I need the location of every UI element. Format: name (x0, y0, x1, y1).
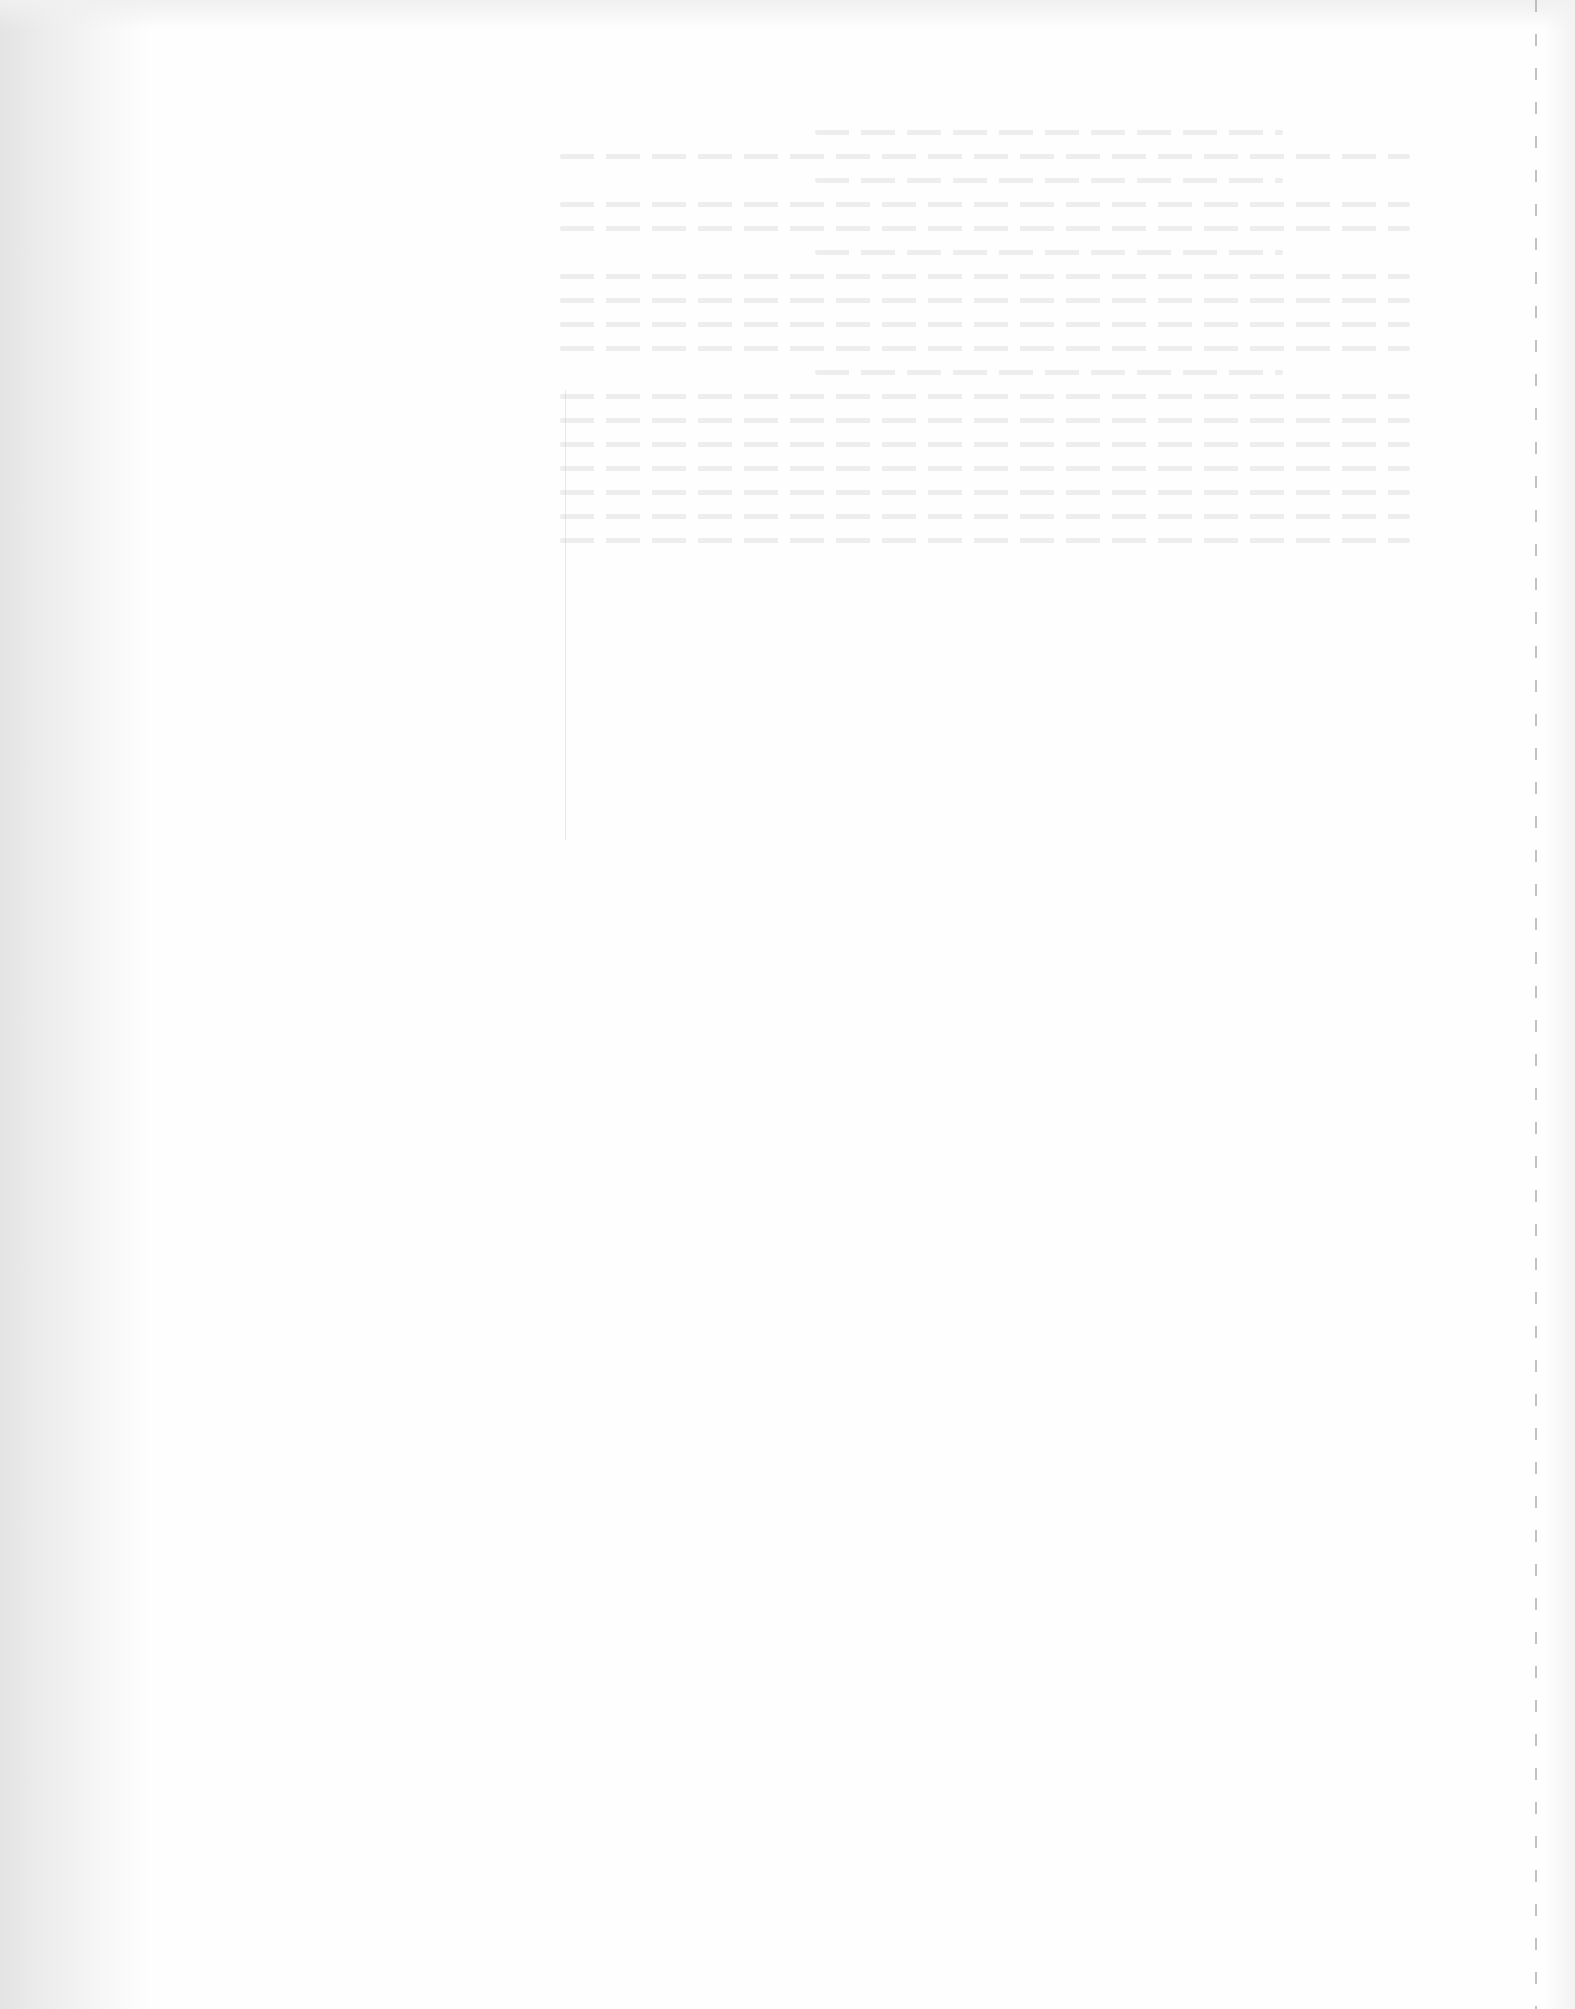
bleed-through-line (560, 418, 1410, 423)
bleed-through-line (560, 322, 1410, 327)
bleed-through-line (560, 538, 1410, 543)
bleed-through-line (815, 178, 1283, 183)
scan-edge-shadow-top (0, 0, 1575, 30)
bleed-through-line (815, 250, 1283, 255)
bleed-through-line (560, 298, 1410, 303)
bleed-through-line (560, 514, 1410, 519)
bleed-through-line (560, 466, 1410, 471)
bleed-through-line (560, 226, 1410, 231)
scan-edge-shadow-right (1545, 0, 1575, 2009)
bleed-through-line (560, 274, 1410, 279)
bleed-through-line (815, 130, 1283, 135)
scan-edge-shadow-left (0, 0, 150, 2009)
bleed-through-line (560, 442, 1410, 447)
bleed-through-line (560, 154, 1410, 159)
bleed-through-line (560, 346, 1410, 351)
bleed-through-line (560, 394, 1410, 399)
bleed-through-text-block (560, 130, 1410, 690)
faint-vertical-rule (565, 390, 566, 840)
perforation-dashed-line (1535, 0, 1537, 2009)
bleed-through-line (560, 202, 1410, 207)
bleed-through-line (560, 490, 1410, 495)
bleed-through-line (815, 370, 1283, 375)
